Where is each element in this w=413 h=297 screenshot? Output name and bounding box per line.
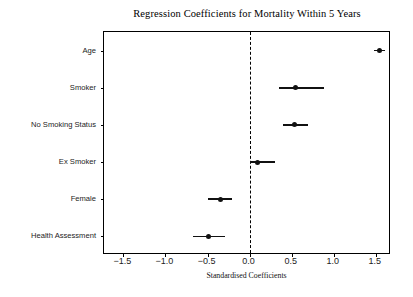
coefficient-point-marker — [292, 122, 297, 127]
coefficient-point-marker — [293, 85, 298, 90]
y-axis-tick-label: No Smoking Status — [31, 119, 96, 128]
y-axis-tick — [101, 51, 105, 52]
regression-coefficient-forest-plot: Regression Coefficients for Mortality Wi… — [0, 0, 413, 297]
coefficient-point-marker — [255, 160, 260, 165]
y-axis-tick-label: Smoker — [70, 82, 96, 91]
y-axis-tick-label: Age — [82, 45, 96, 54]
confidence-interval-bar — [250, 161, 275, 163]
y-axis-tick-label: Health Assessment — [31, 231, 96, 240]
coefficient-point-marker — [377, 48, 382, 53]
confidence-interval-bar — [279, 87, 324, 89]
y-axis-tick — [101, 125, 105, 126]
x-axis-tick-label: 1.0 — [327, 256, 340, 266]
plot-area — [103, 31, 390, 254]
y-axis-tick-label: Female — [71, 194, 96, 203]
x-axis-tick-label: −1.0 — [156, 256, 174, 266]
x-axis-tick-label: −1.5 — [113, 256, 131, 266]
chart-title: Regression Coefficients for Mortality Wi… — [103, 8, 391, 19]
x-axis-title: Standardised Coefficients — [103, 271, 390, 280]
x-axis-tick-label: 1.5 — [369, 256, 382, 266]
x-axis-tick-label: 0.0 — [242, 256, 255, 266]
y-axis-tick — [101, 88, 105, 89]
y-axis-tick — [101, 162, 105, 163]
y-axis-tick — [101, 236, 105, 237]
coefficient-point-marker — [218, 197, 223, 202]
zero-reference-line — [250, 32, 251, 253]
y-axis-tick-label: Ex Smoker — [59, 157, 96, 166]
y-axis-labels: AgeSmokerNo Smoking StatusEx SmokerFemal… — [0, 31, 100, 254]
coefficient-point-marker — [206, 234, 211, 239]
x-axis-tick-labels: −1.5−1.0−0.50.00.51.01.5 — [103, 256, 390, 272]
x-axis-tick-label: −0.5 — [198, 256, 216, 266]
y-axis-tick — [101, 199, 105, 200]
x-axis-tick-label: 0.5 — [284, 256, 297, 266]
